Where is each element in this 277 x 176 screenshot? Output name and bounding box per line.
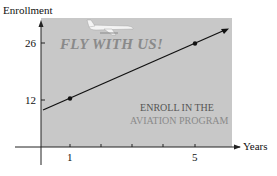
x-tick-1: 1 bbox=[67, 151, 73, 163]
data-point-5 bbox=[193, 41, 197, 45]
y-axis-label: Enrollment bbox=[3, 4, 53, 16]
ad-line-2: AVIATION PROGRAM bbox=[130, 115, 224, 126]
y-tick-26: 26 bbox=[25, 37, 36, 49]
y-tick-12: 12 bbox=[25, 94, 36, 106]
ad-line-1: ENROLL IN THE bbox=[130, 102, 224, 113]
ad-headline: FLY WITH US! bbox=[60, 36, 163, 53]
data-point-1 bbox=[68, 96, 72, 100]
x-axis-label: Years bbox=[243, 140, 268, 152]
x-tick-5: 5 bbox=[192, 151, 198, 163]
chart-canvas bbox=[0, 0, 277, 176]
